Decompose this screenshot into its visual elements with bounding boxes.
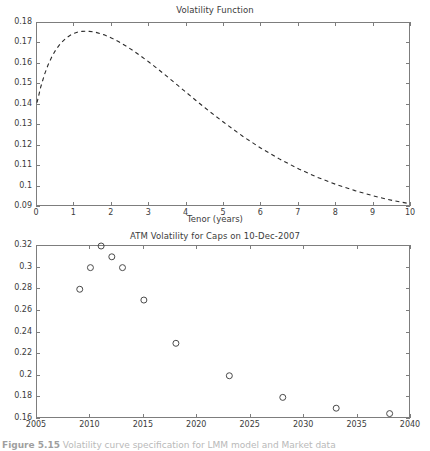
y-tick-label: 0.17 — [0, 38, 32, 46]
y-tick-mark — [36, 104, 40, 105]
chart-atm-volatility-caps: ATM Volatility for Caps on 10-Dec-2007 2… — [0, 228, 430, 440]
y-tick-label: 0.2 — [0, 371, 32, 379]
y-tick-label: 0.12 — [0, 141, 32, 149]
y-tick-mark — [36, 83, 40, 84]
y-tick-mark — [36, 396, 40, 397]
scatter-point — [173, 340, 179, 346]
x-tick-mark-top — [111, 22, 112, 26]
y-tick-label: 0.28 — [0, 284, 32, 292]
x-tick-label: 2005 — [26, 421, 46, 429]
x-tick-mark-top — [298, 22, 299, 26]
x-tick-mark — [223, 202, 224, 206]
y-tick-label: 0.26 — [0, 306, 32, 314]
scatter-point — [141, 297, 147, 303]
y-tick-mark — [36, 206, 40, 207]
x-tick-mark-top — [373, 22, 374, 26]
y-tick-mark — [36, 42, 40, 43]
x-tick-mark-top — [143, 245, 144, 249]
scatter-point — [109, 254, 115, 260]
x-tick-mark-top — [73, 22, 74, 26]
y-tick-mark — [36, 288, 40, 289]
x-tick-mark-top — [335, 22, 336, 26]
x-tick-mark — [373, 202, 374, 206]
y-tick-label: 0.16 — [0, 59, 32, 67]
y-tick-mark-right — [406, 83, 410, 84]
x-tick-mark — [186, 202, 187, 206]
scatter-point — [387, 411, 393, 417]
scatter-point — [333, 405, 339, 411]
y-tick-label: 0.3 — [0, 263, 32, 271]
y-tick-mark — [36, 186, 40, 187]
y-tick-label: 0.1 — [0, 182, 32, 190]
x-tick-mark-top — [357, 245, 358, 249]
y-tick-label: 0.15 — [0, 79, 32, 87]
figure-caption: Figure 5.15 Volatility curve specificati… — [0, 440, 430, 451]
y-tick-label: 0.14 — [0, 100, 32, 108]
y-tick-mark-right — [406, 165, 410, 166]
x-tick-mark-top — [148, 22, 149, 26]
x-tick-mark — [357, 414, 358, 418]
x-tick-mark-top — [410, 22, 411, 26]
x-tick-mark-top — [410, 245, 411, 249]
y-tick-mark — [36, 267, 40, 268]
x-tick-label: 2010 — [79, 421, 99, 429]
y-tick-label: 0.18 — [0, 18, 32, 26]
scatter-point — [280, 394, 286, 400]
plot-area-atm-volatility — [36, 245, 410, 418]
y-tick-mark-right — [406, 353, 410, 354]
y-tick-mark-right — [406, 63, 410, 64]
x-tick-mark — [148, 202, 149, 206]
scatter-point — [119, 265, 125, 271]
chart-title-atm-volatility: ATM Volatility for Caps on 10-Dec-2007 — [0, 231, 430, 241]
y-tick-mark-right — [406, 375, 410, 376]
y-tick-label: 0.22 — [0, 349, 32, 357]
chart-volatility-function: Volatility Function 0123456789100.090.10… — [0, 0, 430, 228]
y-tick-mark — [36, 310, 40, 311]
volatility-function-dashed-curve — [37, 31, 411, 204]
x-tick-mark — [410, 202, 411, 206]
atm-volatility-scatter-layer — [37, 246, 411, 419]
y-tick-mark-right — [406, 124, 410, 125]
y-tick-mark — [36, 353, 40, 354]
figure-caption-label: Figure 5.15 — [2, 440, 60, 450]
y-tick-label: 0.09 — [0, 202, 32, 210]
y-tick-mark-right — [406, 145, 410, 146]
x-tick-mark-top — [186, 22, 187, 26]
scatter-point — [226, 373, 232, 379]
x-axis-label-tenor: Tenor (years) — [0, 214, 430, 224]
y-tick-mark-right — [406, 42, 410, 43]
y-tick-label: 0.13 — [0, 120, 32, 128]
x-tick-mark — [260, 202, 261, 206]
x-tick-mark-top — [303, 245, 304, 249]
y-tick-mark — [36, 165, 40, 166]
figure-caption-body: Volatility curve specification for LMM m… — [63, 440, 336, 450]
figure-container: Volatility Function 0123456789100.090.10… — [0, 0, 430, 451]
x-tick-mark — [89, 414, 90, 418]
y-tick-mark — [36, 245, 40, 246]
y-tick-mark-right — [406, 332, 410, 333]
x-tick-mark — [335, 202, 336, 206]
x-tick-label: 2030 — [293, 421, 313, 429]
chart-title-volatility-function: Volatility Function — [0, 5, 430, 15]
figure-caption-line: Figure 5.15 Volatility curve specificati… — [2, 440, 336, 451]
scatter-point — [98, 243, 104, 249]
scatter-point — [87, 265, 93, 271]
x-tick-mark — [73, 202, 74, 206]
y-tick-mark-right — [406, 310, 410, 311]
scatter-point — [77, 286, 83, 292]
x-tick-mark — [410, 414, 411, 418]
y-tick-mark — [36, 145, 40, 146]
y-tick-mark-right — [406, 288, 410, 289]
x-tick-label: 2035 — [346, 421, 366, 429]
y-tick-label: 0.11 — [0, 161, 32, 169]
x-tick-label: 2015 — [133, 421, 153, 429]
scatter-point-group — [77, 243, 393, 417]
y-tick-mark-right — [406, 418, 410, 419]
y-tick-label: 0.32 — [0, 241, 32, 249]
y-tick-label: 0.18 — [0, 392, 32, 400]
x-tick-mark-top — [196, 245, 197, 249]
x-tick-mark-top — [89, 245, 90, 249]
x-tick-mark — [196, 414, 197, 418]
x-tick-label: 2040 — [400, 421, 420, 429]
y-tick-mark — [36, 124, 40, 125]
